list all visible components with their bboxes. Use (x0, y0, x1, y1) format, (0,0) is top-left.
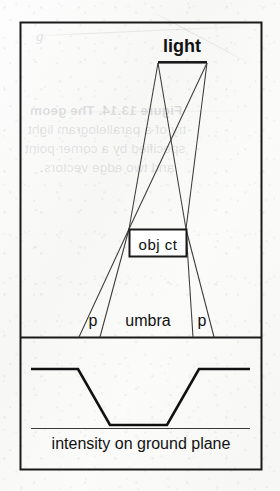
light-label: light (163, 36, 201, 56)
ray-right-to-object-right (186, 63, 207, 229)
penumbra-right-label: p (198, 312, 207, 329)
penumbra-left-label: p (89, 312, 98, 329)
shadow-figure: light obj ct umbra p p intensity on grou… (0, 0, 280, 491)
intensity-caption: intensity on ground plane (52, 435, 231, 452)
intensity-plot-panel: intensity on ground plane (31, 369, 250, 452)
shadow-geometry-panel: light obj ct umbra p p (79, 36, 214, 337)
ray-left-to-object-right (158, 63, 186, 229)
ray-left-to-object-left (129, 63, 158, 229)
area-light-source (158, 61, 207, 64)
intensity-profile-curve (31, 369, 250, 425)
umbra-label: umbra (125, 312, 170, 329)
ray-right-to-object-left (129, 63, 207, 229)
figure-page: Figure 13.14. The geom try of a parallel… (0, 0, 280, 491)
object-label: obj ct (139, 236, 178, 253)
